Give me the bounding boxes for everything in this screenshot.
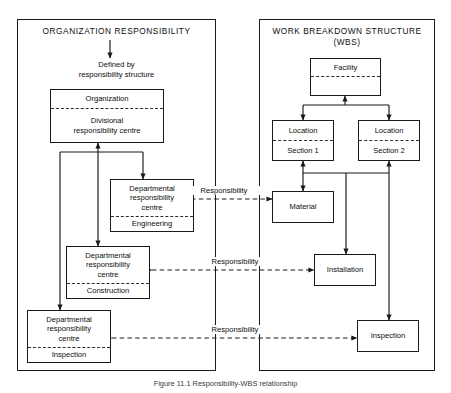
panel-title-organization: ORGANIZATION RESPONSIBILITY — [17, 26, 216, 37]
box-engineering-top: Departmental responsibility centre — [111, 180, 193, 217]
box-location2-bottom: Section 2 — [359, 141, 419, 160]
box-engineering-top-line3: centre — [141, 203, 162, 212]
box-departmental-construction[interactable]: Departmental responsibility centre Const… — [66, 246, 150, 299]
box-construction-top-line3: centre — [97, 270, 118, 279]
link-label-responsibility-1: Responsibility — [186, 186, 262, 195]
box-dept-inspection-top-line2: responsibility — [47, 324, 91, 333]
box-installation-label: Installation — [315, 255, 375, 285]
panel-title-wbs-line2: (WBS) — [255, 37, 439, 48]
box-organization-top: Organization — [51, 90, 163, 109]
box-construction-top-line2: responsibility — [86, 260, 130, 269]
box-engineering-bottom: Engineering — [111, 217, 193, 231]
box-facility-bottom — [311, 77, 380, 95]
box-dept-inspection-top: Departmental responsibility centre — [28, 311, 110, 348]
diagram-canvas: ORGANIZATION RESPONSIBILITY Defined by r… — [0, 0, 451, 393]
defined-by-note-line1: Defined by — [17, 60, 216, 70]
box-facility-top: Facility — [311, 59, 380, 77]
box-material-label: Material — [273, 192, 333, 222]
link-label-responsibility-2: Responsibility — [197, 257, 273, 266]
box-dept-inspection-bottom: Inspection — [28, 348, 110, 362]
box-location-section-2[interactable]: Location Section 2 — [358, 120, 420, 161]
figure-caption: Figure 11.1 Responsibility-WBS relations… — [0, 379, 451, 388]
box-construction-top: Departmental responsibility centre — [67, 247, 149, 284]
box-organization-bottom: Divisional responsibility centre — [51, 109, 163, 142]
panel-title-wbs-line1: WORK BREAKDOWN STRUCTURE — [255, 26, 439, 37]
box-wbs-inspection[interactable]: Inspection — [357, 320, 419, 352]
box-material[interactable]: Material — [272, 191, 334, 223]
box-organization-bottom-line2: responsibility centre — [73, 126, 140, 135]
box-dept-inspection-top-line1: Departmental — [46, 315, 92, 324]
box-engineering-top-line2: responsibility — [130, 193, 174, 202]
box-departmental-inspection[interactable]: Departmental responsibility centre Inspe… — [27, 310, 111, 363]
box-organization-bottom-line1: Divisional — [91, 116, 124, 125]
box-installation[interactable]: Installation — [314, 254, 376, 286]
box-location1-bottom: Section 1 — [273, 141, 333, 160]
link-label-responsibility-3: Responsibility — [197, 325, 273, 334]
box-location1-top: Location — [273, 121, 333, 141]
box-engineering-top-line1: Departmental — [129, 184, 175, 193]
box-wbs-inspection-label: Inspection — [358, 321, 418, 351]
box-location2-top: Location — [359, 121, 419, 141]
box-dept-inspection-top-line3: centre — [58, 334, 79, 343]
box-construction-bottom: Construction — [67, 284, 149, 298]
box-organization[interactable]: Organization Divisional responsibility c… — [50, 89, 164, 143]
box-facility[interactable]: Facility — [310, 58, 381, 96]
box-departmental-engineering[interactable]: Departmental responsibility centre Engin… — [110, 179, 194, 232]
box-location-section-1[interactable]: Location Section 1 — [272, 120, 334, 161]
box-construction-top-line1: Departmental — [85, 251, 131, 260]
defined-by-note-line2: responsibility structure — [17, 70, 216, 80]
